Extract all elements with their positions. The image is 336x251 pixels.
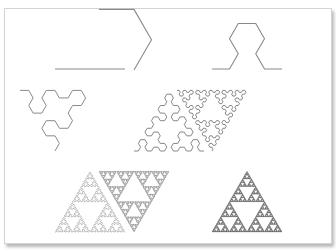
arrowhead-curve-order-5 — [177, 90, 246, 151]
arrowhead-curve-canvas — [0, 0, 336, 251]
arrowhead-curve-order-7 — [99, 171, 169, 232]
arrowhead-curve-order-1 — [99, 9, 152, 70]
arrowhead-curve-order-3 — [20, 90, 86, 151]
arrowhead-curve-order-4 — [134, 94, 204, 151]
arrowhead-curve-order-2 — [212, 24, 282, 69]
arrowhead-curve-order-8 — [212, 172, 282, 232]
arrowhead-curve-order-6 — [55, 172, 125, 232]
